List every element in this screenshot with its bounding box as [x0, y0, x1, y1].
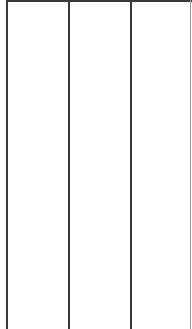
column-divider-right — [190, 0, 191, 329]
table-column-1 — [8, 2, 68, 329]
table-frame — [0, 0, 192, 329]
table-column-3 — [132, 2, 190, 329]
table-column-2 — [70, 2, 131, 329]
